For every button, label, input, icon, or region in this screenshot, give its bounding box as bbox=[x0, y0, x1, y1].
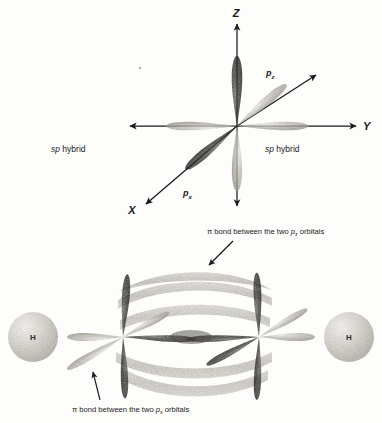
pi-bond-caption-bottom: π bond between the two px orbitals bbox=[72, 405, 189, 415]
page-background bbox=[0, 0, 382, 423]
atom-label-hydrogen-left: H bbox=[30, 333, 36, 342]
axis-label-x: X bbox=[127, 204, 136, 216]
sigma-bond-overlap bbox=[170, 330, 212, 344]
orbital-label-p-diagonal-sub: x bbox=[188, 194, 193, 200]
sp-hybrid-label-right: sp hybrid bbox=[265, 144, 300, 154]
orbital-label-p-vertical-sub: z bbox=[271, 74, 275, 80]
pi-bond-caption-bottom-prefix: π bond between the two bbox=[72, 405, 156, 414]
sp-hybrid-label-left-rest: hybrid bbox=[60, 144, 86, 154]
pi-bond-caption-top-suffix: orbitals bbox=[298, 227, 325, 236]
pi-bond-caption-bottom-suffix: orbitals bbox=[163, 405, 190, 414]
axis-label-z: Z bbox=[232, 7, 241, 19]
pi-bond-caption-top: π bond between the two pz orbitals bbox=[207, 227, 324, 237]
sp-hybrid-label-right-rest: hybrid bbox=[274, 144, 300, 154]
sp-hybrid-label-left: sp hybrid bbox=[51, 144, 86, 154]
atom-label-hydrogen-right: H bbox=[346, 333, 352, 342]
sp-hybrid-label-right-italic: sp bbox=[265, 144, 274, 154]
chemistry-figure: Z Y X pz px sp hybrid sp hybrid bbox=[0, 0, 382, 423]
pi-bond-caption-top-prefix: π bond between the two bbox=[207, 227, 291, 236]
sp-hybrid-label-left-italic: sp bbox=[51, 144, 60, 154]
figure-canvas: Z Y X pz px sp hybrid sp hybrid bbox=[0, 0, 382, 423]
scan-speck bbox=[139, 67, 141, 69]
